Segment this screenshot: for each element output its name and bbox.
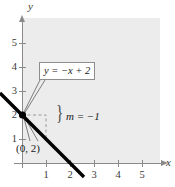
function-line-layer [0, 0, 175, 187]
slope-label: m = −1 [66, 110, 100, 122]
intercept-point-label: (0, 2) [16, 142, 40, 154]
line-y-equals-minus-x-plus-2 [0, 93, 84, 177]
equation-callout-box: y = −x + 2 [39, 62, 95, 80]
y-intercept-point-marker [19, 111, 26, 118]
slope-brace-icon: } [56, 101, 63, 123]
graph-figure: y x 1 2 3 4 5 1 2 3 4 5 y = −x + 2 } m =… [0, 0, 175, 187]
